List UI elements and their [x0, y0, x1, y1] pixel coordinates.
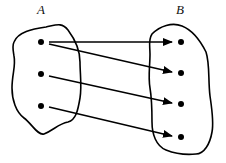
element-a3-dot — [38, 103, 44, 109]
element-b3-dot — [178, 101, 184, 107]
element-a2-dot — [38, 71, 44, 77]
element-a1-dot — [38, 39, 44, 45]
arrow-a2-b3 — [49, 76, 172, 103]
diagram-canvas: A B — [0, 0, 226, 163]
arrow-a1-b2 — [49, 44, 172, 72]
set-a-boundary — [12, 25, 81, 134]
element-b2-dot — [178, 70, 184, 76]
set-a-label: A — [36, 2, 45, 17]
set-b-label: B — [176, 2, 184, 17]
element-b1-dot — [178, 39, 184, 45]
mapping-diagram: A B — [0, 0, 226, 163]
element-b4-dot — [178, 134, 184, 140]
